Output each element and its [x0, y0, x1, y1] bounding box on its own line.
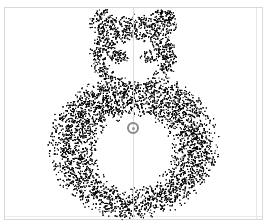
vertical-guide-line — [133, 7, 134, 220]
scatter-figure — [0, 0, 271, 224]
target-center-dot-icon — [132, 127, 135, 130]
